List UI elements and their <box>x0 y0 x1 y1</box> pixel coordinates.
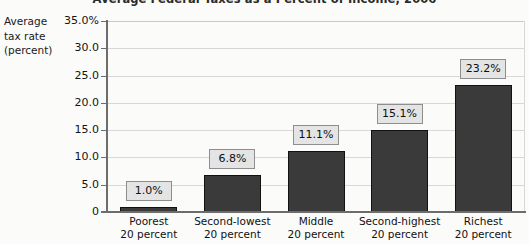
x-axis-category-label: Second-highest20 percent <box>358 215 442 241</box>
plot-right-border <box>524 21 525 212</box>
x-axis-category-label: Middle20 percent <box>274 215 358 241</box>
bar <box>455 85 512 212</box>
y-tick-mark <box>101 48 107 49</box>
bar <box>288 151 345 212</box>
y-tick-label: 25.0 <box>37 70 99 81</box>
bar-value-label: 1.0% <box>126 181 172 201</box>
gridline <box>107 21 525 22</box>
bar <box>371 130 428 212</box>
y-axis-tick-labels: 35.0%30.025.020.015.010.05.00 <box>33 0 99 244</box>
category-label-line-2: 20 percent <box>107 228 191 241</box>
x-axis-category-label: Richest20 percent <box>441 215 525 241</box>
bar-value-label: 23.2% <box>460 59 506 79</box>
category-label-line-2: 20 percent <box>441 228 525 241</box>
category-label-line-1: Middle <box>274 215 358 228</box>
y-tick-label: 10.0 <box>37 151 99 162</box>
y-tick-mark <box>101 130 107 131</box>
y-tick-mark <box>101 76 107 77</box>
y-tick-label: 20.0 <box>37 97 99 108</box>
category-label-line-1: Richest <box>441 215 525 228</box>
y-tick-label: 0 <box>37 206 99 217</box>
x-axis-line <box>101 211 526 213</box>
gridline <box>107 48 525 49</box>
y-tick-label: 5.0 <box>37 179 99 190</box>
category-label-line-1: Poorest <box>107 215 191 228</box>
y-tick-label: 30.0 <box>37 42 99 53</box>
y-tick-mark <box>101 185 107 186</box>
x-axis-category-label: Poorest20 percent <box>107 215 191 241</box>
y-tick-mark <box>101 21 107 22</box>
category-label-line-2: 20 percent <box>274 228 358 241</box>
bar-value-label: 11.1% <box>293 125 339 145</box>
bar <box>204 175 261 212</box>
category-label-line-1: Second-highest <box>358 215 442 228</box>
category-label-line-2: 20 percent <box>191 228 275 241</box>
y-tick-mark <box>101 103 107 104</box>
y-tick-label: 35.0% <box>37 15 99 26</box>
category-label-line-1: Second-lowest <box>191 215 275 228</box>
bar-chart-figure: Average Federal Taxes as a Percent of In… <box>0 0 529 244</box>
bar-value-label: 15.1% <box>377 104 423 124</box>
y-tick-label: 15.0 <box>37 124 99 135</box>
y-tick-mark <box>101 212 107 213</box>
x-axis-category-label: Second-lowest20 percent <box>191 215 275 241</box>
bar-value-label: 6.8% <box>209 149 255 169</box>
y-tick-mark <box>101 157 107 158</box>
category-label-line-2: 20 percent <box>358 228 442 241</box>
